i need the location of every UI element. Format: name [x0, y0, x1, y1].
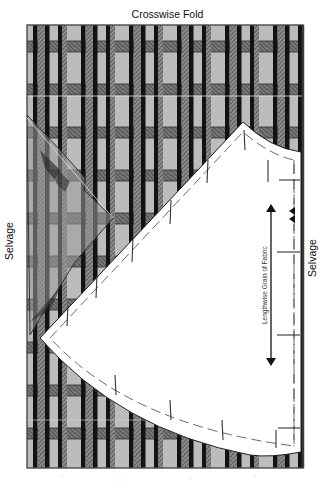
selvage-label-right: Selvage: [306, 239, 318, 277]
cutting-layout-diagram: [0, 0, 335, 488]
grain-label: Lengthwise Grain of Fabric: [261, 246, 268, 324]
selvage-label-left: Selvage: [3, 222, 15, 260]
diagram-title: Crosswise Fold: [0, 8, 335, 20]
scan-speckles: [61, 475, 255, 480]
